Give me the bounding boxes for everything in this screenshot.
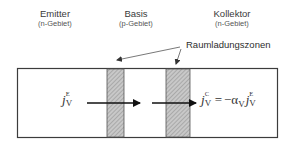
emitter-current-formula: j E V [62, 92, 74, 108]
subscript-v: V [205, 100, 213, 107]
subscript-v-rhs: V [249, 100, 257, 107]
alpha-subscript: V [238, 99, 245, 109]
leader-line-right [176, 49, 181, 64]
superscript-c: C [205, 90, 213, 97]
transistor-diagram: Emitter (n-Gebiet) Basis (p-Gebiet) Koll… [0, 0, 293, 145]
diagram-graphics [0, 0, 293, 145]
leader-line-left [117, 47, 180, 60]
equals-sign: = [215, 92, 222, 107]
subscript-v: V [66, 100, 74, 107]
collector-current-formula: j C V =−αVj E V [201, 92, 257, 108]
superscript-e: E [66, 90, 74, 97]
superscript-e-rhs: E [249, 90, 257, 97]
